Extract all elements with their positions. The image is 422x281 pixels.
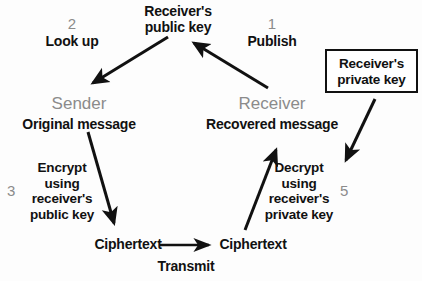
original-message-label: Original message — [22, 116, 136, 132]
step-1-number: 1 — [268, 15, 276, 32]
receiver-role-label: Receiver — [238, 94, 305, 114]
public-key-encryption-diagram: Receiver's public key 1 Publish 2 Look u… — [0, 0, 422, 281]
private-key-box: Receiver's private key — [325, 49, 418, 93]
recovered-message-label: Recovered message — [206, 116, 338, 132]
step-1-action-label: Publish — [247, 33, 296, 49]
step-2-number: 2 — [68, 15, 76, 32]
private-key-label: Receiver's private key — [327, 56, 416, 87]
step-3-number: 3 — [7, 182, 15, 199]
step-3-action-label: Encrypt using receiver's public key — [30, 160, 94, 223]
lookup-arrow — [93, 37, 168, 83]
transmit-label: Transmit — [158, 258, 215, 274]
ciphertext-left-label: Ciphertext — [94, 236, 161, 252]
ciphertext-right-label: Ciphertext — [219, 236, 286, 252]
public-key-label: Receiver's public key — [144, 3, 212, 35]
step-2-action-label: Look up — [45, 33, 98, 49]
private-key-arrow — [346, 99, 375, 160]
step-5-action-label: Decrypt using receiver's private key — [265, 160, 333, 223]
step-5-number: 5 — [340, 182, 348, 199]
publish-arrow — [194, 43, 268, 88]
sender-role-label: Sender — [52, 94, 107, 114]
